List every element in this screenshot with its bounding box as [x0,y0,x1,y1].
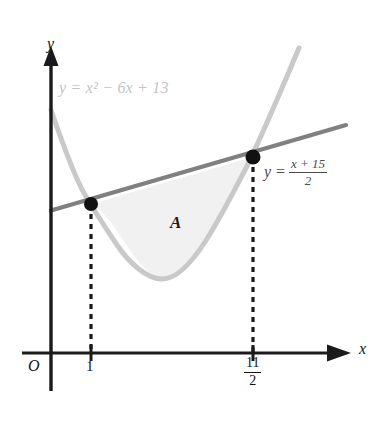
graph-canvas [0,0,386,428]
line-equation-fraction: x + 15 2 [289,157,327,187]
intersection-point-right [246,150,261,165]
region-label-A: A [170,214,181,231]
origin-label: O [28,358,40,374]
line-equation-lhs: y = [264,164,286,180]
intersection-point-left [84,197,98,211]
x-tick-label-1: 1 [86,359,94,374]
line-equation-numerator: x + 15 [289,157,327,173]
x-axis-label: x [359,341,366,357]
parabola-equation-label: y = x² − 6x + 13 [59,80,169,96]
x-tick-label-eleven-halves: 11 2 [244,356,261,388]
line-equation-label: y = x + 15 2 [264,157,327,187]
fraction-denominator: 2 [249,373,256,389]
fraction-eleven-halves: 11 2 [244,356,261,388]
line-equation-denominator: 2 [305,173,312,188]
x-axis-arrowhead [327,345,351,362]
math-figure-area-between-curves: y x O 1 11 2 y = x² − 6x + 13 y = x + 15… [0,0,386,428]
fraction-numerator: 11 [244,356,261,373]
y-axis-label: y [47,36,54,52]
